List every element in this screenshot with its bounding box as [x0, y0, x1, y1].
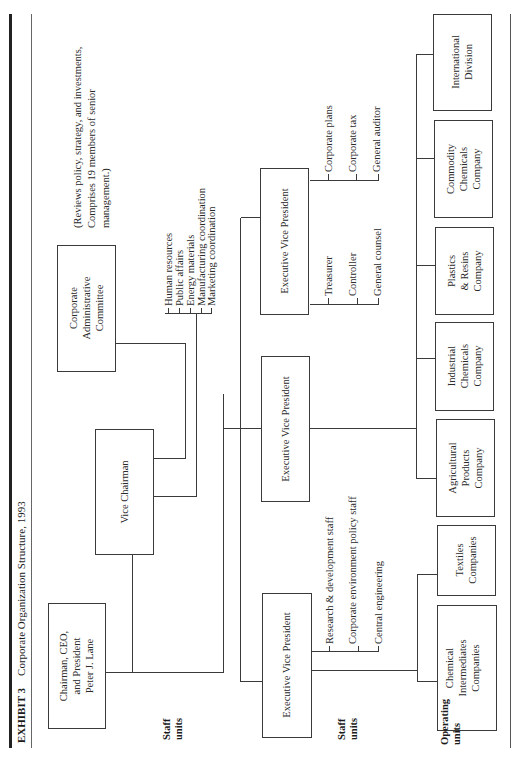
svg-text:Company: Company	[471, 148, 482, 190]
evp-1-staff-ticks	[312, 646, 379, 652]
org-chart: EXHIBIT 3 Corporate Organization Structu…	[0, 0, 529, 774]
svg-text:Intermediates: Intermediates	[457, 639, 468, 696]
svg-text:Commodity: Commodity	[445, 143, 456, 194]
evp-2-label: Executive Vice President	[280, 376, 291, 481]
exhibit-title: EXHIBIT 3 Corporate Organization Structu…	[11, 501, 28, 743]
staff-item: General auditor	[371, 106, 382, 172]
svg-text:Companies: Companies	[467, 536, 478, 583]
row-label-staff-units-1: Staff units	[161, 718, 184, 740]
evp-1-staff-list: Research & development staff Corporate e…	[324, 496, 384, 644]
svg-text:Company: Company	[473, 447, 484, 489]
vice-chairman-staff-list: Human resources Public affairs Energy ma…	[163, 187, 217, 306]
svg-text:Administrative: Administrative	[81, 276, 92, 339]
svg-text:International: International	[450, 35, 461, 89]
staff-item: Corporate environment policy staff	[347, 496, 358, 644]
svg-text:units: units	[451, 723, 462, 745]
evp-1-label: Executive Vice President	[281, 612, 292, 717]
svg-text:management.): management.)	[100, 168, 112, 228]
staff-item: Marketing coordination	[206, 206, 217, 306]
evp-3-label: Executive Vice President	[279, 188, 290, 293]
staff-item: Human resources	[163, 233, 174, 306]
svg-text:Operating: Operating	[439, 698, 450, 745]
svg-text:Division: Division	[463, 43, 474, 80]
svg-text:Agricultural: Agricultural	[447, 442, 458, 493]
svg-text:units: units	[348, 718, 359, 740]
svg-text:Comprises 19 members of senior: Comprises 19 members of senior	[86, 89, 97, 228]
staff-item: Central engineering	[373, 560, 384, 644]
staff-item: Treasurer	[323, 256, 334, 296]
staff-item: Energy materials	[185, 235, 196, 306]
evp-3-staff-right-ticks	[310, 174, 379, 181]
svg-text:Chemical: Chemical	[444, 648, 455, 688]
svg-text:Textiles: Textiles	[454, 543, 465, 576]
svg-text:& Resins: & Resins	[459, 252, 470, 291]
vice-chairman-label: Vice Chairman	[119, 460, 130, 524]
staff-item: Controller	[347, 252, 358, 296]
svg-text:Chemicals: Chemicals	[458, 147, 469, 191]
svg-text:Staff: Staff	[161, 718, 172, 740]
chairman-label: Chairman, CEO, and President Peter J. La…	[58, 631, 95, 701]
staff-item: Public affairs	[174, 250, 185, 306]
connector-vice-staff	[154, 314, 197, 497]
svg-text:and President: and President	[71, 637, 82, 694]
svg-text:Companies: Companies	[470, 644, 481, 691]
exhibit-label: EXHIBIT 3	[15, 687, 27, 743]
svg-text:units: units	[173, 718, 184, 740]
evp-3-staff-left-ticks	[310, 298, 379, 305]
ops-bus-1	[418, 575, 438, 682]
svg-text:Industrial: Industrial	[446, 346, 457, 386]
svg-text:Chairman, CEO,: Chairman, CEO,	[58, 631, 69, 701]
staff-item: Research & development staff	[324, 516, 335, 644]
evp-3-staff-right-list: Corporate plans Corporate tax General au…	[323, 105, 382, 172]
svg-text:Plastics: Plastics	[446, 255, 457, 287]
svg-text:Peter J. Lane: Peter J. Lane	[84, 638, 95, 693]
staff-item: Corporate plans	[323, 105, 334, 172]
svg-text:Chemicals: Chemicals	[459, 344, 470, 388]
evp-3-staff-left-list: Treasurer Controller General counsel	[323, 228, 383, 296]
svg-text:Products: Products	[460, 450, 471, 487]
committee-note: (Reviews policy, strategy, and investmen…	[72, 47, 112, 228]
svg-text:Staff: Staff	[336, 718, 347, 740]
svg-text:Company: Company	[472, 345, 483, 387]
staff-item: Corporate tax	[347, 114, 358, 172]
staff-item: General counsel	[372, 228, 383, 296]
svg-text:(Reviews policy, strategy, and: (Reviews policy, strategy, and investmen…	[72, 47, 84, 228]
svg-text:Committee: Committee	[94, 284, 105, 331]
ops-bus-2	[417, 55, 437, 479]
svg-text:Corporate: Corporate	[68, 287, 79, 329]
exhibit-caption: Corporate Organization Structure, 1993	[15, 501, 27, 676]
row-label-staff-units-2: Staff units	[336, 718, 359, 740]
svg-text:Company: Company	[472, 250, 483, 292]
